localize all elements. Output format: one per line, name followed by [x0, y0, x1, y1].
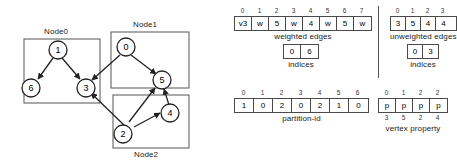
weighted-edges-cells: v3 w 5 w 4 w 5 w [234, 16, 372, 31]
weighted-indices-cells: 0 6 [283, 44, 319, 59]
vertex-circle-0 [117, 38, 135, 56]
vertex-circle-6 [22, 79, 40, 97]
edge-4-to-5 [164, 89, 169, 105]
edge-1-to-6 [38, 58, 53, 79]
index-label: 3 [435, 6, 450, 16]
weighted-indices-group: 0 6 indices [283, 44, 319, 69]
unweighted-edges-group: 0 1 2 3 3 5 4 4 unweighted edges [390, 6, 457, 41]
array-cell: 0 [284, 45, 301, 58]
edge-1-to-3 [62, 58, 80, 79]
index-label: 2 [429, 88, 446, 98]
index-label: 4 [302, 6, 319, 16]
subscript-label: 4 [429, 113, 446, 123]
weighted-edges-caption: weighted edges [234, 32, 372, 41]
array-cell: 0 [408, 45, 423, 58]
vertex-property-subscript-row: 3 5 2 4 [378, 113, 448, 123]
array-cell: 5 [406, 17, 421, 30]
partition-id-caption: partition-id [234, 114, 369, 123]
partition-id-group: 0 1 2 3 4 5 6 1 0 2 0 2 1 0 partition-id [234, 88, 369, 123]
array-cell: 1 [235, 99, 254, 112]
vertical-divider [378, 6, 379, 78]
array-cell: p [430, 99, 447, 112]
partition-id-index-row: 0 1 2 3 4 5 6 [234, 88, 369, 98]
array-cell: w [286, 17, 303, 30]
index-label: 3 [291, 88, 310, 98]
vertex-property-caption: vertex property [378, 124, 448, 133]
edge-2-to-4 [134, 113, 160, 127]
index-label: 1 [395, 88, 412, 98]
vertex-property-index-row: 0 1 2 2 [378, 88, 448, 98]
edge-2-to-5 [129, 88, 155, 122]
weighted-indices-caption: indices [283, 60, 319, 69]
array-cell: 4 [421, 17, 436, 30]
index-label: 5 [329, 88, 348, 98]
array-cell: v3 [235, 17, 252, 30]
subscript-label: 2 [412, 113, 429, 123]
index-label: 6 [336, 6, 353, 16]
index-label: 0 [234, 6, 251, 16]
vertex-circle-5 [153, 71, 171, 89]
array-cell: 1 [330, 99, 349, 112]
subscript-label: 3 [378, 113, 395, 123]
partition-label-node2: Node2 [134, 150, 158, 159]
array-cell: w [320, 17, 337, 30]
array-cell: p [413, 99, 430, 112]
unweighted-indices-cells: 0 3 [407, 44, 439, 59]
unweighted-edges-caption: unweighted edges [390, 32, 457, 41]
vertex-circle-4 [161, 104, 179, 122]
array-cell: 2 [273, 99, 292, 112]
index-label: 7 [353, 6, 370, 16]
partition-label-node1: Node1 [133, 20, 157, 29]
vertex-circle-3 [77, 79, 95, 97]
array-cell: 2 [311, 99, 330, 112]
weighted-edges-group: 0 1 2 3 4 5 6 7 v3 w 5 w 4 w 5 w weighte… [234, 6, 372, 41]
array-cell: 3 [423, 45, 438, 58]
array-cell: p [396, 99, 413, 112]
index-label: 1 [251, 6, 268, 16]
graph-diagram-svg [0, 0, 228, 167]
array-cell: 0 [349, 99, 368, 112]
index-label: 2 [412, 88, 429, 98]
array-cell: w [354, 17, 371, 30]
vertex-circle-2 [114, 125, 132, 143]
array-cell: 5 [337, 17, 354, 30]
index-label: 3 [285, 6, 302, 16]
array-cell: 3 [391, 17, 406, 30]
index-label: 2 [268, 6, 285, 16]
array-cell: 0 [254, 99, 273, 112]
index-label: 0 [378, 88, 395, 98]
index-label: 1 [253, 88, 272, 98]
array-cell: 0 [292, 99, 311, 112]
array-cell: 4 [436, 17, 451, 30]
edge-0-to-3 [92, 55, 120, 80]
index-label: 0 [390, 6, 405, 16]
partition-id-cells: 1 0 2 0 2 1 0 [234, 98, 369, 113]
index-label: 0 [234, 88, 253, 98]
vertex-property-group: 0 1 2 2 p p p p 3 5 2 4 vertex property [378, 88, 448, 133]
vertex-circle-1 [49, 41, 67, 59]
array-cell: p [379, 99, 396, 112]
unweighted-edges-cells: 3 5 4 4 [390, 16, 457, 31]
unweighted-edges-index-row: 0 1 2 3 [390, 6, 457, 16]
partition-label-node0: Node0 [44, 27, 68, 36]
index-label: 2 [420, 6, 435, 16]
index-label: 6 [348, 88, 367, 98]
index-label: 2 [272, 88, 291, 98]
subscript-label: 5 [395, 113, 412, 123]
index-label: 4 [310, 88, 329, 98]
arrays-panel: 0 1 2 3 4 5 6 7 v3 w 5 w 4 w 5 w weighte… [228, 0, 457, 167]
unweighted-indices-caption: indices [407, 60, 439, 69]
vertex-property-cells: p p p p [378, 98, 448, 113]
array-cell: 6 [301, 45, 318, 58]
weighted-edges-index-row: 0 1 2 3 4 5 6 7 [234, 6, 372, 16]
unweighted-indices-group: 0 3 indices [407, 44, 439, 69]
array-cell: w [252, 17, 269, 30]
array-cell: 5 [269, 17, 286, 30]
edge-0-to-5 [131, 55, 156, 74]
array-cell: 4 [303, 17, 320, 30]
index-label: 1 [405, 6, 420, 16]
edge-2-to-3 [91, 93, 127, 128]
graph-diagram-panel: 1 6 3 0 5 4 2 Node0 Node1 Node2 [0, 0, 228, 167]
index-label: 5 [319, 6, 336, 16]
